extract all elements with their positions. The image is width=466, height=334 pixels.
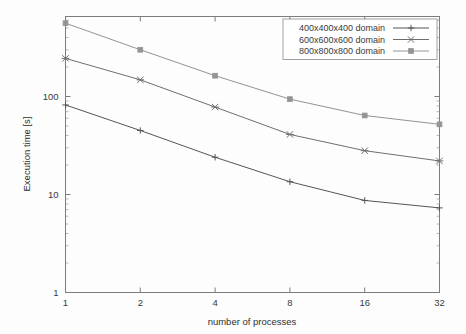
y-tick-label: 100 <box>43 91 59 102</box>
data-point-marker-plus <box>137 127 143 133</box>
y-tick-label: 1 <box>53 287 58 298</box>
data-point-marker-cross <box>361 147 369 153</box>
data-point-marker-plus <box>62 102 68 108</box>
data-point-marker-cross <box>286 131 294 137</box>
data-point-marker-square <box>362 113 367 118</box>
data-point-marker-square <box>213 73 218 78</box>
data-point-marker-square <box>409 49 414 54</box>
data-point-marker-square <box>437 122 442 127</box>
x-axis-title: number of processes <box>208 316 297 327</box>
data-point-marker-cross <box>137 77 145 83</box>
data-point-marker-plus <box>362 197 368 203</box>
legend-item-label: 600x600x600 domain <box>299 35 385 45</box>
y-axis-title: Execution time [s] <box>21 117 32 192</box>
x-tick-label: 4 <box>212 297 217 308</box>
x-tick-label: 16 <box>359 297 370 308</box>
x-tick-label: 2 <box>138 297 143 308</box>
legend-item-label: 800x800x800 domain <box>299 46 385 56</box>
x-tick-label: 1 <box>63 297 68 308</box>
data-point-marker-plus <box>287 179 293 185</box>
series-2 <box>62 55 444 164</box>
data-point-marker-square <box>288 97 293 102</box>
plot-canvas: 110100 12481632 number of processes Exec… <box>0 0 466 334</box>
data-point-marker-plus <box>212 154 218 160</box>
y-axis-tick-labels: 110100 <box>43 91 59 298</box>
x-tick-label: 32 <box>434 297 445 308</box>
legend: 400x400x400 domain600x600x600 domain800x… <box>283 19 437 60</box>
x-tick-label: 8 <box>287 297 292 308</box>
data-point-marker-cross <box>211 104 219 110</box>
chart-figure: 110100 12481632 number of processes Exec… <box>0 0 466 334</box>
data-point-marker-plus <box>436 205 442 211</box>
x-axis-tick-labels: 12481632 <box>63 297 445 308</box>
data-point-marker-square <box>138 47 143 52</box>
legend-item-label: 400x400x400 domain <box>299 23 385 33</box>
data-point-marker-square <box>63 21 68 26</box>
y-tick-label: 10 <box>48 189 59 200</box>
